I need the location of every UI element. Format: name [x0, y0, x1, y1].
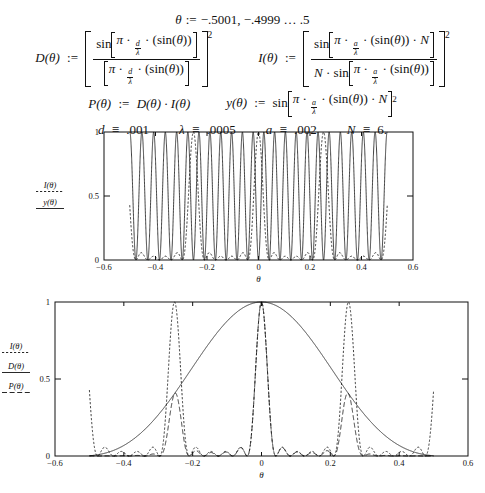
- i-bracket-group: sin π · aλ · (sin(θ)) · N N · sin π · aλ…: [303, 31, 450, 87]
- series-curve-d: [89, 302, 433, 456]
- x-tick-label: 0.4: [394, 458, 405, 468]
- y-exponent: 2: [392, 93, 397, 103]
- x-axis-label: θ: [259, 470, 264, 480]
- x-tick-label: 0.6: [408, 262, 419, 272]
- x-tick-label: 0.4: [356, 262, 367, 272]
- d-fraction: sin π · dλ · (sin(θ)) π · dλ · (sin(θ)): [93, 32, 199, 86]
- y-tick-label: 0.5: [39, 374, 50, 384]
- i-assign-op: :=: [285, 50, 296, 65]
- x-tick-label: −0.4: [148, 262, 164, 272]
- legend-label-i: I(θ): [43, 180, 57, 190]
- x-tick-label: 0.6: [463, 458, 474, 468]
- d-definition: D(θ) := sin π · dλ · (sin(θ)): [35, 31, 212, 87]
- i-definition: I(θ) := sin π · aλ · (sin(θ)) · N N · si…: [258, 31, 449, 87]
- series-curve-y: [130, 132, 388, 260]
- y-tick-label: 1: [46, 297, 50, 307]
- x-tick-label: 0.2: [325, 458, 336, 468]
- y-function-name: y(θ): [226, 95, 247, 110]
- i-function-name: I(θ): [258, 50, 277, 65]
- d-bracket-group: sin π · dλ · (sin(θ)) π · dλ · (sin(θ)): [85, 31, 212, 87]
- chart-interference-y: −0.6−0.4−0.200.20.40.600.51θI(θ)y(θ): [0, 126, 485, 286]
- y-tick-label: 0: [95, 255, 99, 265]
- x-tick-label: 0.2: [305, 262, 316, 272]
- d-function-name: D(θ): [35, 50, 59, 65]
- chart-diffraction-product: −0.6−0.4−0.200.20.40.600.51θI(θ)D(θ)P(θ): [0, 296, 485, 493]
- y-tick-label: 1: [95, 127, 99, 137]
- d-assign-op: :=: [67, 50, 78, 65]
- y-assign-op: :=: [254, 95, 265, 110]
- i-exponent: 2: [445, 30, 450, 40]
- x-tick-label: −0.4: [116, 458, 132, 468]
- y-tick-label: 0.5: [88, 191, 99, 201]
- legend-label-y: y(θ): [42, 197, 57, 207]
- theta-symbol: θ: [175, 12, 181, 28]
- p-y-definitions-row: P(θ) := D(θ) · I(θ) y(θ) := sin π · aλ ·…: [0, 91, 485, 117]
- i-numerator: sin π · aλ · (sin(θ)) · N: [311, 32, 437, 60]
- legend-label-d: D(θ): [7, 361, 24, 371]
- x-axis-label: θ: [256, 274, 261, 284]
- theta-definition: θ := −.5001, −.4999 … .5: [0, 12, 485, 28]
- p-expression: D(θ) · I(θ): [137, 96, 191, 111]
- x-tick-label: −0.2: [199, 262, 214, 272]
- theta-range-values: −.5001, −.4999 … .5: [201, 12, 310, 28]
- legend-label-i: I(θ): [9, 341, 23, 351]
- d-fraction-wrap: sin π · dλ · (sin(θ)) π · dλ · (sin(θ)): [91, 31, 201, 87]
- i-fraction-wrap: sin π · aλ · (sin(θ)) · N N · sin π · aλ…: [309, 31, 439, 87]
- p-assign-op: :=: [118, 96, 129, 111]
- i-fraction: sin π · aλ · (sin(θ)) · N N · sin π · aλ…: [311, 32, 437, 86]
- i-denominator: N · sin π · aλ · (sin(θ)): [311, 60, 437, 87]
- d-exponent: 2: [208, 30, 213, 40]
- d-numerator: sin π · dλ · (sin(θ)): [93, 32, 199, 60]
- x-tick-label: −0.2: [185, 458, 200, 468]
- formula-block: θ := −.5001, −.4999 … .5 D(θ) := sin π ·…: [0, 0, 485, 138]
- theta-assign-op: :=: [186, 12, 197, 28]
- y-tick-label: 0: [46, 451, 50, 461]
- y-expression: sin π · aλ · (sin(θ)) · N2: [273, 95, 397, 110]
- p-function-name: P(θ): [88, 96, 111, 111]
- d-denominator: π · dλ · (sin(θ)): [101, 60, 192, 87]
- d-i-definitions-row: D(θ) := sin π · dλ · (sin(θ)): [0, 31, 485, 87]
- p-definition: P(θ) := D(θ) · I(θ): [88, 96, 190, 112]
- legend-label-p: P(θ): [7, 381, 23, 391]
- x-tick-label: 0: [256, 262, 260, 272]
- x-tick-label: 0: [259, 458, 263, 468]
- y-definition: y(θ) := sin π · aλ · (sin(θ)) · N2: [226, 91, 397, 117]
